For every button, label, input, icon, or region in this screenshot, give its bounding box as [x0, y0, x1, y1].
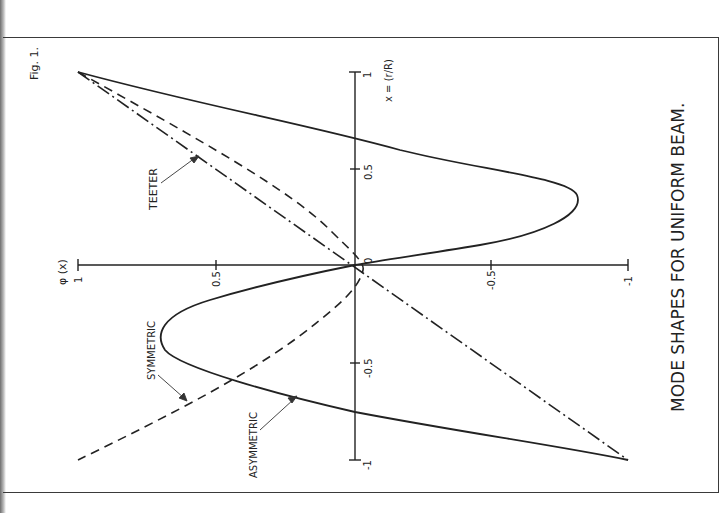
figure-title: MODE SHAPES FOR UNIFORM BEAM.	[668, 103, 688, 412]
symmetric-label: SYMMETRIC	[146, 321, 157, 380]
x-tick-1: 1	[362, 72, 373, 78]
origin-label: 0	[363, 258, 374, 264]
annotation-arrows	[158, 156, 297, 430]
phi-axis-label: φ (x)	[56, 259, 69, 285]
phi-tick-neg-1: -1	[623, 276, 634, 286]
mode-shape-chart: Fig. 1. x = (r/R) φ (x) 1 0.5 0 -0.5 -1 …	[0, 0, 725, 513]
phi-tick-0.5: 0.5	[211, 271, 222, 287]
phi-tick-1: 1	[73, 277, 84, 283]
x-tick-neg-1: -1	[362, 460, 373, 470]
figure-label: Fig. 1.	[28, 47, 41, 80]
asymmetric-label: ASYMMETRIC	[248, 412, 259, 478]
phi-tick-neg-0.5: -0.5	[486, 270, 497, 290]
teeter-label: TEETER	[147, 168, 160, 211]
x-tick-neg-0.5: -0.5	[363, 358, 374, 378]
x-tick-0.5: 0.5	[363, 164, 374, 180]
x-axis-label: x = (r/R)	[383, 59, 394, 102]
